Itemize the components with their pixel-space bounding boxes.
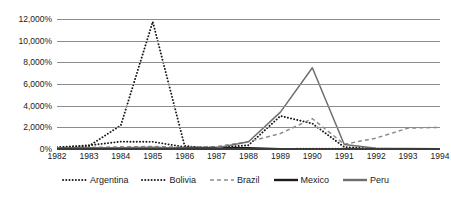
x-axis-tick-label: 1986 <box>175 152 194 161</box>
legend-label: Bolivia <box>169 176 196 185</box>
legend-label: Brazil <box>237 176 260 185</box>
gridline <box>57 62 440 63</box>
x-axis-tick-label: 1992 <box>367 152 386 161</box>
legend-label: Mexico <box>301 176 330 185</box>
legend-swatch-argentina <box>62 175 88 185</box>
y-axis-tick-label: 2,000% <box>23 123 52 132</box>
y-axis-tick-label: 12,000% <box>18 15 52 24</box>
x-axis-tick-label: 1985 <box>143 152 162 161</box>
legend-swatch-peru <box>342 175 368 185</box>
legend-item-peru[interactable]: Peru <box>342 175 389 185</box>
x-axis-tick-label: 1994 <box>431 152 450 161</box>
gridline <box>57 106 440 107</box>
y-axis-tick-label: 8,000% <box>23 58 52 67</box>
legend-item-bolivia[interactable]: Bolivia <box>141 175 196 185</box>
legend-swatch-bolivia <box>141 175 167 185</box>
y-axis-tick-label: 6,000% <box>23 80 52 89</box>
inflation-line-chart: 0%2,000%4,000%6,000%8,000%10,000%12,000%… <box>0 0 451 200</box>
x-axis-tick-label: 1983 <box>79 152 98 161</box>
gridline <box>57 19 440 20</box>
legend-item-brazil[interactable]: Brazil <box>209 175 260 185</box>
legend-swatch-mexico <box>273 175 299 185</box>
legend-label: Argentina <box>90 176 129 185</box>
gridline <box>57 127 440 128</box>
x-axis-baseline <box>57 148 440 150</box>
legend-swatch-brazil <box>209 175 235 185</box>
x-axis-tick-label: 1989 <box>271 152 290 161</box>
x-axis-tick-label: 1984 <box>111 152 130 161</box>
legend-item-argentina[interactable]: Argentina <box>62 175 129 185</box>
chart-legend: ArgentinaBoliviaBrazilMexicoPeru <box>0 172 451 188</box>
x-axis-labels: 1982198319841985198619871988198919901991… <box>57 152 440 166</box>
x-axis-tick-label: 1988 <box>239 152 258 161</box>
series-line-argentina <box>57 116 440 149</box>
y-axis-tick-label: 4,000% <box>23 101 52 110</box>
gridline <box>57 84 440 85</box>
x-axis-tick-label: 1993 <box>399 152 418 161</box>
y-axis-labels: 0%2,000%4,000%6,000%8,000%10,000%12,000% <box>0 19 52 149</box>
series-line-brazil <box>57 119 440 148</box>
y-axis-tick-label: 10,000% <box>18 36 52 45</box>
legend-label: Peru <box>370 176 389 185</box>
x-axis-tick-label: 1991 <box>335 152 354 161</box>
x-axis-tick-label: 1990 <box>303 152 322 161</box>
plot-area <box>57 19 440 149</box>
x-axis-tick-label: 1982 <box>48 152 67 161</box>
gridline <box>57 41 440 42</box>
legend-item-mexico[interactable]: Mexico <box>273 175 330 185</box>
x-axis-tick-label: 1987 <box>207 152 226 161</box>
